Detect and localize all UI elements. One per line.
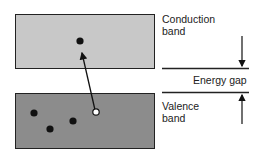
excitation-arrow-icon bbox=[82, 53, 95, 110]
electron-valence-2 bbox=[46, 125, 53, 132]
electron-valence-3 bbox=[69, 117, 76, 124]
diagram-graphics bbox=[0, 0, 262, 153]
hole-valence bbox=[93, 109, 99, 115]
electron-valence-1 bbox=[30, 109, 37, 116]
electron-conduction bbox=[76, 37, 83, 44]
